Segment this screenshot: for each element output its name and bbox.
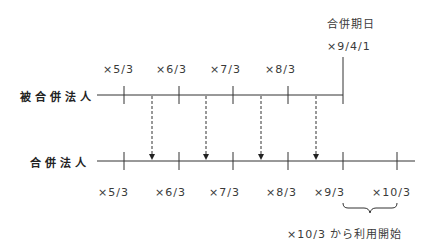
bottom-date-label: ×9/3 <box>314 186 345 199</box>
merged-corp-label: 被合併法人 <box>20 88 95 104</box>
bottom-date-label: ×5/3 <box>98 186 129 199</box>
top-date-label: ×7/3 <box>210 63 241 76</box>
timeline-diagram <box>0 0 436 251</box>
merger-date-label: 合併期日 <box>327 15 375 31</box>
top-date-label: ×8/3 <box>265 63 296 76</box>
top-date-label: ×6/3 <box>156 63 187 76</box>
curly-brace-icon <box>343 203 397 213</box>
brace-note: ×10/3 から利用開始 <box>287 225 402 241</box>
top-date-label: ×5/3 <box>103 63 134 76</box>
bottom-date-label: ×6/3 <box>155 186 186 199</box>
bottom-date-label: ×10/3 <box>372 186 411 199</box>
bottom-date-label: ×7/3 <box>209 186 240 199</box>
bottom-date-label: ×8/3 <box>266 186 297 199</box>
arrow-head-icons <box>149 154 319 160</box>
merging-corp-label: 合併法人 <box>30 154 90 170</box>
merger-date-value: ×9/4/1 <box>327 40 371 53</box>
carryover-arrows <box>152 96 316 154</box>
